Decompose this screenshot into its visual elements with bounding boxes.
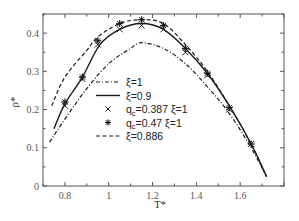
y-tick-label: 0 bbox=[34, 181, 39, 192]
y-tick-label: 0.3 bbox=[27, 66, 40, 77]
phase-diagram-chart: 0.811.21.41.600.10.20.30.4 T* ρ* ξ=1ξ=0.… bbox=[0, 0, 299, 221]
x-axis-label: T* bbox=[154, 198, 166, 210]
data-series bbox=[50, 16, 267, 176]
y-tick-label: 0.2 bbox=[27, 104, 40, 115]
series-dashed bbox=[52, 20, 267, 177]
legend-item: ξ=1 bbox=[96, 76, 143, 88]
legend-item: ξ=0.9 bbox=[96, 90, 152, 102]
legend-label: ξ=1 bbox=[126, 76, 143, 88]
y-axis-label: ρ* bbox=[8, 97, 20, 108]
plot-border bbox=[43, 14, 284, 186]
x-tick-label: 1 bbox=[106, 190, 111, 201]
legend-item: ξ=0.886 bbox=[96, 130, 163, 142]
legend-label: qc=0.387 ξ=1 bbox=[126, 103, 188, 118]
legend-item: qc=0.47 ξ=1 bbox=[105, 117, 182, 132]
legend-item: qc=0.387 ξ=1 bbox=[106, 103, 188, 118]
legend-label: ξ=0.886 bbox=[126, 130, 163, 142]
legend: ξ=1ξ=0.9qc=0.387 ξ=1qc=0.47 ξ=1ξ=0.886 bbox=[96, 76, 188, 142]
y-tick-label: 0.4 bbox=[27, 28, 40, 39]
legend-label: qc=0.47 ξ=1 bbox=[126, 117, 182, 132]
y-tick-label: 0.1 bbox=[27, 142, 40, 153]
x-tick-label: 0.8 bbox=[59, 190, 72, 201]
plot-frame bbox=[43, 14, 284, 186]
legend-label: ξ=0.9 bbox=[126, 90, 152, 102]
x-tick-label: 1.6 bbox=[234, 190, 247, 201]
x-tick-label: 1.4 bbox=[190, 190, 203, 201]
